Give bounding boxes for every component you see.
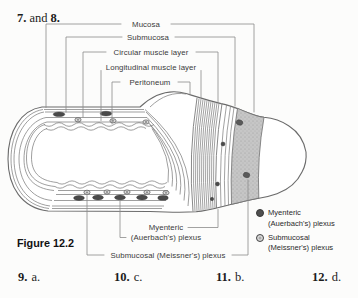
- submucosal-ringed-circle-icon: [256, 234, 264, 242]
- label-mucosa: Mucosa: [132, 20, 160, 29]
- answer-9: 9.a.: [18, 270, 40, 285]
- answer-11: 11.b.: [216, 270, 244, 285]
- legend-item-submucosal: Submucosal (Meissner's) plexus: [256, 233, 335, 254]
- answer-9-letter: a.: [31, 270, 40, 284]
- question-header: 7.and8.: [17, 11, 60, 26]
- label-peritoneum: Peritoneum: [130, 78, 171, 87]
- label-longitudinal-muscle-layer: Longitudinal muscle layer: [106, 63, 196, 72]
- legend-submucosal-line2: (Meissner's) plexus: [268, 243, 333, 254]
- question-number-7: 7.: [17, 11, 26, 25]
- question-number-8: 8.: [50, 11, 59, 25]
- figure-label: Figure 12.2: [17, 237, 74, 249]
- myenteric-filled-circle-icon: [256, 209, 264, 217]
- label-submucosa: Submucosa: [127, 33, 169, 42]
- label-myenteric-plexus: Myenteric (Auerbach's) plexus: [131, 223, 202, 243]
- answer-10: 10.c.: [114, 270, 142, 285]
- answer-12-number: 12.: [312, 270, 328, 284]
- plexus-legend: Myenteric (Auerbach's) plexus Submucosal…: [256, 208, 335, 257]
- answer-11-number: 11.: [216, 270, 231, 284]
- answer-key-page: 7.and8. Mucosa Submucosa Circular muscle…: [0, 0, 358, 298]
- legend-myenteric-line1: Myenteric: [268, 208, 335, 219]
- answer-12: 12.d.: [312, 270, 341, 285]
- label-myenteric-line1: Myenteric: [131, 223, 202, 233]
- answer-10-number: 10.: [114, 270, 130, 284]
- legend-item-myenteric: Myenteric (Auerbach's) plexus: [256, 208, 335, 229]
- legend-submucosal-line1: Submucosal: [268, 233, 333, 244]
- question-header-conjunction: and: [29, 11, 47, 25]
- answer-10-letter: c.: [134, 270, 143, 284]
- answer-9-number: 9.: [18, 270, 27, 284]
- answer-12-letter: d.: [332, 270, 341, 284]
- legend-myenteric-line2: (Auerbach's) plexus: [268, 219, 335, 230]
- label-circular-muscle-layer: Circular muscle layer: [114, 48, 189, 57]
- label-myenteric-line2: (Auerbach's) plexus: [131, 233, 202, 243]
- answer-11-letter: b.: [235, 270, 244, 284]
- label-submucosal-plexus: Submucosal (Meissner's) plexus: [111, 251, 226, 260]
